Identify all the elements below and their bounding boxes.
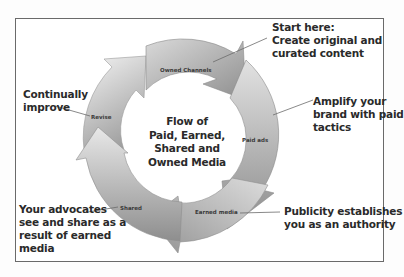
callout-line: curated content (272, 47, 382, 60)
center-title-line: Shared and (140, 142, 234, 156)
center-title-line: Flow of (140, 115, 234, 129)
callout-line: brand with paid (313, 108, 404, 121)
callout-start-here: Start here: Create original and curated … (272, 21, 382, 60)
callout-line: see and share as a (19, 216, 126, 229)
segment-label-owned-channels: Owned Channels (160, 67, 212, 73)
callout-line: tactics (313, 121, 404, 134)
callout-line: Start here: (272, 21, 382, 34)
callout-line: Continually (23, 88, 88, 101)
center-title-line: Paid, Earned, (140, 129, 234, 143)
callout-continually-improve: Continually improve (23, 88, 88, 114)
segment-label-revise: Revise (91, 114, 112, 120)
callout-amplify: Amplify your brand with paid tactics (313, 95, 404, 134)
callout-advocates: Your advocates see and share as a result… (19, 203, 126, 255)
leader-line-amplify (273, 100, 313, 115)
callout-line: Publicity establishes (284, 205, 402, 218)
segment-label-paid-ads: Paid ads (242, 137, 269, 143)
callout-line: you as an authority (284, 218, 402, 231)
callout-line: Create original and (272, 34, 382, 47)
center-title-line: Owned Media (140, 156, 234, 170)
callout-line: result of earned (19, 229, 126, 242)
callout-line: Your advocates (19, 203, 126, 216)
center-title: Flow of Paid, Earned, Shared and Owned M… (140, 115, 234, 169)
callout-line: media (19, 242, 126, 255)
callout-line: Amplify your (313, 95, 404, 108)
callout-line: improve (23, 101, 88, 114)
callout-publicity: Publicity establishes you as an authorit… (284, 205, 402, 231)
segment-label-earned-media: Earned media (195, 209, 238, 215)
